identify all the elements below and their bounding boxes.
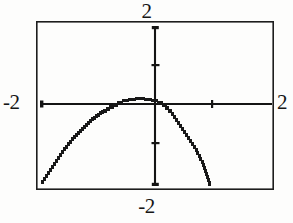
y-axis-top-cap — [152, 26, 159, 29]
y-axis-tick-neg1 — [152, 142, 160, 144]
x-axis-left-cap — [40, 101, 43, 108]
plot-viewport — [36, 21, 274, 190]
y-max-label: 2 — [0, 1, 293, 22]
y-axis — [152, 26, 160, 186]
y-min-label: -2 — [0, 196, 293, 217]
graph-screenshot: 2 -2 2 -2 — [0, 0, 293, 223]
x-axis-tick-1 — [211, 100, 213, 108]
plot-canvas — [36, 21, 274, 190]
x-min-label: -2 — [3, 92, 20, 113]
parabola-curve — [41, 97, 211, 186]
y-axis-bottom-cap — [152, 183, 159, 186]
y-axis-tick-pos1 — [152, 64, 160, 66]
x-max-label: 2 — [277, 92, 287, 113]
